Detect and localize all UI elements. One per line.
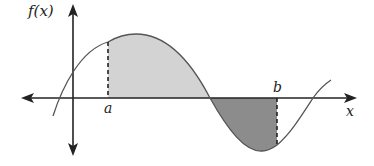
point-a-label: a [104, 101, 112, 115]
positive-area [108, 34, 210, 98]
point-b-label: b [273, 80, 282, 94]
function-graph: f(x) a b x [0, 0, 374, 166]
y-axis-label: f(x) [28, 4, 54, 19]
graph-canvas [0, 0, 374, 166]
x-axis-label: x [346, 104, 354, 118]
